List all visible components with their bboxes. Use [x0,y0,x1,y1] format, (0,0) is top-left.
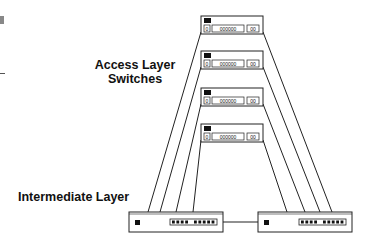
port-icon [341,221,344,224]
port-icon [185,221,188,224]
port-icon [332,221,335,224]
port-label: 000000 [220,61,237,67]
uplink-line-left [176,104,201,212]
port-label: 000000 [220,98,237,104]
port-label: 000000 [220,134,237,140]
access-layer-label: Access Layer Switches [80,58,190,86]
port-icon [310,221,313,224]
port-icon [314,221,317,224]
port-icon [327,221,330,224]
uplink-line-left [193,140,201,212]
port-icon [301,221,304,224]
port-label: 0 [206,61,209,67]
port-label: 000000 [220,26,237,32]
status-led-icon [204,90,211,95]
port-label: 00 [250,134,256,140]
port-icon [207,221,210,224]
port-icon [172,221,175,224]
uplink-line-left [160,67,201,212]
port-label: 00 [250,98,256,104]
port-label: 0 [206,98,209,104]
edge-artifact-block [0,16,4,24]
port-icon [323,221,326,224]
access-layer-label-line1: Access Layer [80,58,190,72]
port-icon [305,221,308,224]
status-led-icon [204,18,211,23]
network-topology-diagram: 000000000000000000000000000000000000 [0,0,371,246]
port-icon [181,221,184,224]
status-led-icon [264,220,269,225]
status-led-icon [204,53,211,58]
uplink-line-right [263,32,332,212]
port-label: 00 [250,26,256,32]
port-icon [194,221,197,224]
uplink-line-right [263,67,320,212]
port-label: 0 [206,26,209,32]
status-led-icon [204,126,211,131]
status-led-icon [135,220,140,225]
port-icon [176,221,179,224]
uplink-line-right [263,140,287,212]
port-label: 00 [250,61,256,67]
access-layer-label-line2: Switches [80,72,190,86]
port-icon [198,221,201,224]
port-label: 0 [206,134,209,140]
port-icon [212,221,215,224]
intermediate-layer-label: Intermediate Layer [18,190,129,204]
edge-artifact-dash [0,73,5,74]
port-icon [336,221,339,224]
port-icon [203,221,206,224]
